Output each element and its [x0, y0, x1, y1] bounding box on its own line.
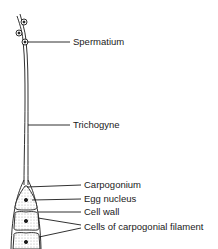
- label-trichogyne: Trichogyne: [73, 120, 120, 130]
- label-egg-nucleus: Egg nucleus: [84, 194, 136, 204]
- label-cell-wall: Cell wall: [84, 207, 119, 217]
- label-carpogonial-filament: Cells of carpogonial filament: [84, 222, 203, 232]
- spermatia: [16, 19, 28, 45]
- carpogonial-filament-shape: [11, 180, 41, 249]
- label-spermatium: Spermatium: [73, 37, 124, 47]
- label-carpogonium: Carpogonium: [84, 180, 141, 190]
